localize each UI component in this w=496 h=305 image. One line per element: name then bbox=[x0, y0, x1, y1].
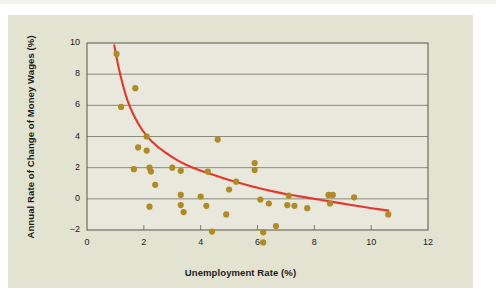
data-point bbox=[304, 205, 310, 211]
data-point bbox=[273, 223, 279, 229]
data-point bbox=[223, 211, 229, 217]
data-point bbox=[284, 202, 290, 208]
data-point bbox=[252, 160, 258, 166]
data-point bbox=[205, 168, 211, 174]
data-point bbox=[252, 167, 258, 173]
data-point bbox=[178, 168, 184, 174]
data-point bbox=[226, 186, 232, 192]
data-point bbox=[266, 200, 272, 206]
data-point bbox=[152, 182, 158, 188]
page-top-edge bbox=[0, 0, 496, 4]
data-point bbox=[209, 228, 215, 234]
data-point bbox=[203, 203, 209, 209]
data-point bbox=[260, 239, 266, 245]
data-point bbox=[169, 165, 175, 171]
data-point bbox=[181, 209, 187, 215]
data-point bbox=[113, 51, 119, 57]
data-point bbox=[286, 193, 292, 199]
data-point bbox=[132, 85, 138, 91]
data-point bbox=[327, 200, 333, 206]
data-point bbox=[144, 147, 150, 153]
data-point bbox=[148, 168, 154, 174]
plot-area bbox=[8, 15, 473, 288]
data-point bbox=[215, 137, 221, 143]
data-point bbox=[291, 203, 297, 209]
scatter-chart: Annual Rate of Change of Money Wages (%)… bbox=[8, 15, 473, 288]
data-point bbox=[385, 211, 391, 217]
data-point bbox=[330, 192, 336, 198]
data-point bbox=[198, 193, 204, 199]
data-point bbox=[146, 204, 152, 210]
data-point bbox=[178, 202, 184, 208]
data-point bbox=[178, 192, 184, 198]
data-point bbox=[351, 194, 357, 200]
data-point bbox=[233, 179, 239, 185]
data-point bbox=[118, 104, 124, 110]
data-point bbox=[135, 144, 141, 150]
figure-card: Annual Rate of Change of Money Wages (%)… bbox=[8, 15, 473, 288]
data-point bbox=[260, 229, 266, 235]
data-point bbox=[131, 166, 137, 172]
data-point bbox=[257, 197, 263, 203]
data-point bbox=[144, 133, 150, 139]
